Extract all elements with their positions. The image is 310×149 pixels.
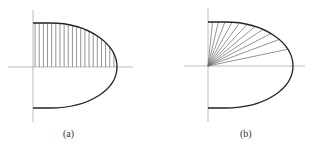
figure-b [184, 8, 305, 122]
radial-rays [208, 22, 288, 66]
curve-a [33, 23, 117, 108]
diagram-canvas [0, 0, 310, 149]
ray-line [208, 34, 271, 66]
vertical-strips [35, 23, 114, 67]
caption-b: (b) [240, 128, 252, 139]
figure-a [8, 10, 133, 122]
ray-line [208, 39, 279, 66]
caption-a: (a) [63, 128, 74, 139]
ray-line [208, 27, 255, 66]
curve-b [208, 22, 293, 108]
